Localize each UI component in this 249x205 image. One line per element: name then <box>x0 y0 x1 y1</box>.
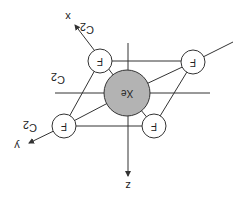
c2-label-x: C 2 <box>80 21 94 36</box>
c2-label-horizontal: C 2 <box>51 71 65 86</box>
ligand-f-bottom-left: F <box>52 114 76 138</box>
svg-text:F: F <box>97 56 103 67</box>
svg-text:C: C <box>57 74 65 86</box>
svg-text:2: 2 <box>23 119 29 131</box>
svg-text:2: 2 <box>80 21 86 33</box>
ligand-f-top-left: F <box>88 49 112 73</box>
y-axis-label: y <box>14 140 20 152</box>
svg-text:F: F <box>151 121 157 132</box>
svg-text:F: F <box>61 121 67 132</box>
svg-text:C: C <box>29 122 37 134</box>
xe-label: Xe <box>120 88 133 99</box>
ligand-f-top-right: F <box>181 50 205 74</box>
x-axis-label: x <box>65 11 71 23</box>
svg-text:C: C <box>86 24 94 36</box>
svg-text:F: F <box>190 57 196 68</box>
xef4-symmetry-diagram: Xe F F F F x y z C 2 C 2 C 2 <box>0 0 249 205</box>
ligand-f-bottom-right: F <box>142 114 166 138</box>
z-axis-label: z <box>125 180 131 192</box>
c2-label-y: C 2 <box>23 119 37 134</box>
svg-text:2: 2 <box>51 71 57 83</box>
